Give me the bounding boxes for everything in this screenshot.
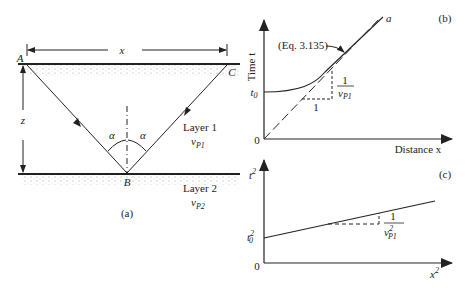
point-c-label: C <box>228 66 236 78</box>
c-slope-numerator: 1 <box>390 210 396 222</box>
b-x-axis-label: Distance x <box>395 143 442 155</box>
point-a-label: A <box>16 52 24 64</box>
reflected-ray-arrow <box>184 107 191 116</box>
layer1-name: Layer 1 <box>183 121 217 133</box>
reflected-ray <box>127 65 227 173</box>
distance-label: x <box>119 44 125 56</box>
t2-x2-line <box>264 201 435 238</box>
c-y-axis-label: t2 <box>249 167 256 181</box>
b-origin-label: 0 <box>254 134 260 146</box>
panel-c-caption: (c) <box>439 168 452 181</box>
curve-annotation: (Eq. 3.135) <box>278 39 328 52</box>
c-intercept-label: t20 <box>247 229 254 245</box>
point-b-label: B <box>124 176 131 188</box>
b-y-axis-label: Time t <box>245 53 257 82</box>
depth-label: z <box>20 114 26 126</box>
c-origin-label: 0 <box>254 260 260 272</box>
c-x-axis-label: x2 <box>429 266 439 280</box>
traveltime-curve <box>264 17 383 92</box>
angle-right-label: α <box>140 129 146 141</box>
panel-a-caption: (a) <box>121 207 134 220</box>
panel-b-caption: (b) <box>439 12 452 25</box>
figure: x z α α A C B Layer 1 vP1 Layer 2 vP2 (a… <box>0 0 465 290</box>
asymptote-label: a <box>386 12 392 24</box>
panel-c: t2 x2 0 t20 (c) 1 v2P1 <box>247 160 452 280</box>
angle-arc-left <box>108 140 126 151</box>
panel-b: Time t Distance x 0 t0 a (Eq. 3.135) (b)… <box>245 12 452 155</box>
b-slope-denominator: vP1 <box>338 87 352 101</box>
annotation-arrow <box>326 46 344 52</box>
angle-left-label: α <box>109 129 115 141</box>
b-intercept-label: t0 <box>250 86 257 100</box>
b-slope-run-label: 1 <box>313 101 319 113</box>
b-slope-numerator: 1 <box>342 74 348 86</box>
c-slope-denominator: v2P1 <box>384 224 397 241</box>
layer2-velocity: vP2 <box>191 196 205 211</box>
panel-a: x z α α A C B Layer 1 vP1 Layer 2 vP2 (a… <box>16 44 240 220</box>
layer2-name: Layer 2 <box>183 182 217 194</box>
layer1-velocity: vP1 <box>191 135 205 150</box>
angle-arc-right <box>128 140 146 151</box>
surface-texture <box>22 64 240 76</box>
